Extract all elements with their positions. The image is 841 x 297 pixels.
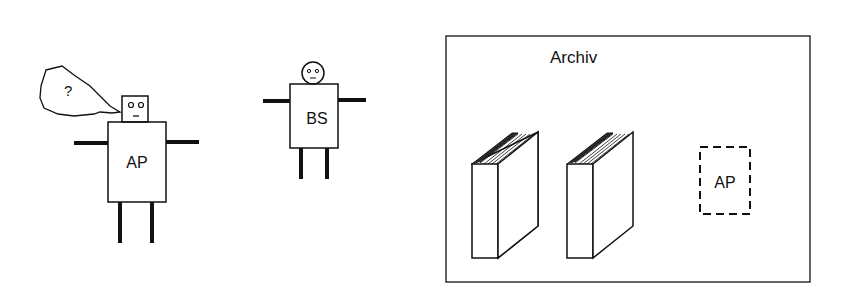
book-1 <box>472 132 538 258</box>
speech-bubble-text: ? <box>64 82 72 99</box>
bs-label: BS <box>306 110 327 127</box>
book-2 <box>567 132 633 258</box>
actor-ap: ? AP <box>40 66 199 243</box>
ap-head <box>122 96 148 122</box>
bs-head <box>302 62 324 84</box>
diagram-canvas: ? AP BS Archiv <box>0 0 841 297</box>
ap-eye-right <box>139 103 144 108</box>
ap-label: AP <box>126 154 147 171</box>
bs-eye-left <box>307 69 310 72</box>
ap-eye-left <box>129 103 134 108</box>
ap-placeholder-label: AP <box>714 174 735 191</box>
archive: Archiv <box>446 36 810 282</box>
actor-bs: BS <box>263 62 366 179</box>
archive-title: Archiv <box>550 48 598 67</box>
speech-bubble <box>40 66 120 116</box>
bs-eye-right <box>315 69 318 72</box>
